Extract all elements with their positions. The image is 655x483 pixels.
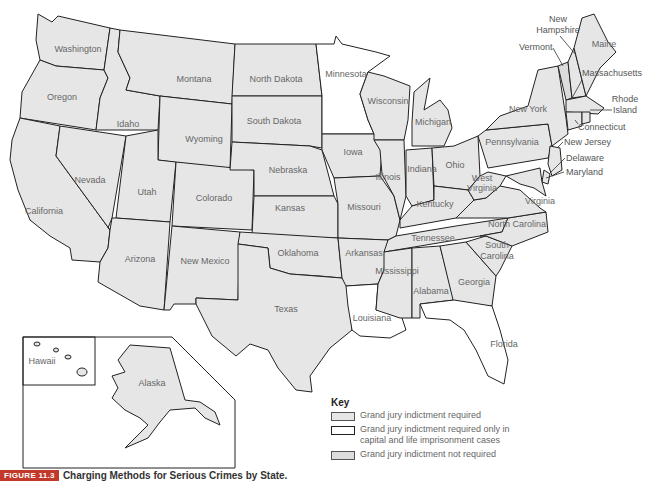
label-michigan: Michigan (415, 117, 451, 127)
label-west-virginia-1: West (472, 173, 493, 183)
label-rhode-island-2: Island (613, 105, 637, 115)
label-indiana: Indiana (407, 164, 437, 174)
label-maryland: Maryland (566, 167, 603, 177)
label-mississippi: Mississippi (375, 266, 419, 276)
hawaii-island (54, 348, 59, 352)
hawaii-island (34, 342, 40, 346)
label-missouri: Missouri (347, 202, 381, 212)
label-nevada: Nevada (74, 175, 105, 185)
state-washington (36, 14, 110, 70)
state-indiana (406, 148, 434, 206)
label-new-hampshire-1: New (549, 14, 568, 24)
hawaii-island (65, 355, 71, 359)
label-delaware: Delaware (566, 153, 604, 163)
state-wyoming (158, 96, 232, 170)
state-new-jersey (548, 146, 562, 176)
label-wyoming: Wyoming (185, 134, 222, 144)
label-virginia: Virginia (525, 196, 555, 206)
label-kentucky: Kentucky (416, 199, 454, 209)
label-utah: Utah (137, 187, 156, 197)
label-idaho: Idaho (117, 119, 140, 129)
label-texas: Texas (274, 304, 298, 314)
label-oklahoma: Oklahoma (277, 248, 318, 258)
label-new-mexico: New Mexico (180, 256, 229, 266)
label-rhode-island-1: Rhode (612, 94, 639, 104)
state-hawaii (77, 368, 87, 376)
state-north-dakota (232, 44, 322, 96)
label-iowa: Iowa (343, 147, 362, 157)
figure-title: Charging Methods for Serious Crimes by S… (63, 470, 287, 481)
label-vermont: Vermont (519, 42, 553, 52)
label-tennessee: Tennessee (411, 233, 455, 243)
key-item-not-required: Grand jury indictment not required (331, 449, 531, 460)
label-kansas: Kansas (275, 203, 306, 213)
label-california: California (25, 206, 63, 216)
label-north-dakota: North Dakota (249, 74, 302, 84)
label-pennsylvania: Pennsylvania (485, 137, 539, 147)
label-north-carolina: North Carolina (488, 219, 546, 229)
label-new-jersey: New Jersey (564, 137, 612, 147)
label-colorado: Colorado (196, 193, 233, 203)
label-montana: Montana (176, 74, 211, 84)
map-key: Key Grand jury indictment required Grand… (331, 397, 531, 463)
label-alabama: Alabama (413, 286, 449, 296)
label-florida: Florida (490, 339, 518, 349)
label-wisconsin: Wisconsin (367, 96, 408, 106)
figure-badge: FIGURE 11.3 (0, 470, 59, 481)
label-ohio: Ohio (445, 160, 464, 170)
state-massachusetts (566, 96, 604, 114)
leader-vermont (553, 48, 563, 66)
label-washington: Washington (54, 44, 101, 54)
state-new-mexico (164, 226, 240, 310)
label-nebraska: Nebraska (269, 165, 308, 175)
key-title: Key (331, 397, 531, 408)
label-arkansas: Arkansas (345, 248, 383, 258)
label-new-york: New York (509, 104, 548, 114)
label-arizona: Arizona (125, 254, 156, 264)
key-label-not-required: Grand jury indictment not required (360, 449, 496, 460)
leader-new-jersey (557, 142, 563, 148)
label-georgia: Georgia (458, 277, 490, 287)
label-illinois: Illinois (375, 172, 401, 182)
label-louisiana: Louisiana (353, 313, 392, 323)
us-map: Washington Oregon California Idaho Nevad… (0, 0, 655, 483)
key-label-required: Grand jury indictment required (360, 410, 481, 421)
label-alaska-main: Alaska (138, 378, 165, 388)
label-maine: Maine (592, 39, 617, 49)
figure-caption: FIGURE 11.3 Charging Methods for Serious… (0, 470, 287, 481)
label-west-virginia-2: Virginia (467, 183, 497, 193)
label-oregon: Oregon (47, 92, 77, 102)
key-item-required: Grand jury indictment required (331, 410, 531, 421)
label-minnesota: Minnesota (325, 69, 367, 79)
swatch-not-required (331, 451, 355, 460)
leader-new-hampshire (560, 36, 576, 55)
swatch-capital-only (331, 426, 355, 435)
label-south-carolina-1: South (485, 240, 509, 250)
label-south-dakota: South Dakota (247, 116, 302, 126)
label-hawaii: Hawaii (28, 356, 55, 366)
label-new-hampshire-2: Hampshire (536, 25, 580, 35)
swatch-required (331, 412, 355, 421)
key-item-capital-only: Grand jury indictment required only in c… (331, 424, 531, 446)
label-connecticut: Connecticut (578, 122, 626, 132)
label-south-carolina-2: Carolina (480, 251, 514, 261)
state-michigan (412, 78, 452, 146)
key-label-capital-only: Grand jury indictment required only in c… (360, 424, 531, 446)
state-alaska (112, 345, 220, 448)
label-massachusetts: Massachusetts (582, 68, 643, 78)
